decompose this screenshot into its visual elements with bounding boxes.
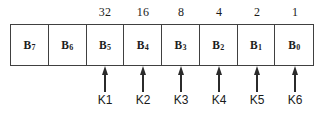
arrow-slot-b7	[10, 66, 48, 92]
bit-cell-b0: B0	[275, 25, 313, 65]
key-label-k6: K6	[276, 92, 314, 110]
bit-label-base-b6: B	[61, 39, 69, 51]
key-label-k5: K5	[238, 92, 276, 110]
key-label-row: K1 K2 K3 K4 K5 K6	[10, 92, 314, 110]
arrow-up-icon-k3	[162, 66, 200, 92]
bit-label-base-b0: B	[288, 39, 296, 51]
weight-label-b1: 2	[238, 4, 276, 22]
arrow-shaft-k1	[104, 74, 105, 92]
weight-label-b4: 16	[124, 4, 162, 22]
bit-cell-b3: B3	[162, 25, 200, 65]
bit-label-base-b7: B	[24, 39, 32, 51]
bit-cell-b1: B1	[238, 25, 276, 65]
weight-label-b6	[48, 4, 86, 22]
bit-label-base-b4: B	[137, 39, 145, 51]
arrow-shaft-k4	[218, 74, 219, 92]
diagram-canvas: 32 16 8 4 2 1 B7 B6 B5 B4 B3 B2 B1 B0	[0, 0, 324, 115]
bit-label-sub-b0: 0	[296, 43, 300, 52]
bit-cell-b2: B2	[200, 25, 238, 65]
arrow-row	[10, 66, 314, 92]
bit-label-sub-b2: 2	[220, 43, 224, 52]
arrow-up-icon-k6	[276, 66, 314, 92]
arrow-shaft-k2	[142, 74, 143, 92]
arrow-shaft-k3	[180, 74, 181, 92]
bit-label-base-b1: B	[250, 39, 258, 51]
key-label-b7	[10, 92, 48, 110]
bit-cell-b5: B5	[87, 25, 125, 65]
weight-label-b0: 1	[276, 4, 314, 22]
bit-cell-b4: B4	[124, 25, 162, 65]
bit-label-base-b5: B	[99, 39, 107, 51]
weight-label-b5: 32	[86, 4, 124, 22]
arrow-up-icon-k5	[238, 66, 276, 92]
weight-label-b2: 4	[200, 4, 238, 22]
bit-register: B7 B6 B5 B4 B3 B2 B1 B0	[10, 24, 314, 66]
arrow-up-icon-k2	[124, 66, 162, 92]
bit-label-sub-b3: 3	[183, 43, 187, 52]
key-label-b6	[48, 92, 86, 110]
bit-cell-b6: B6	[49, 25, 87, 65]
weight-label-b7	[10, 4, 48, 22]
key-label-k2: K2	[124, 92, 162, 110]
bit-label-sub-b6: 6	[69, 43, 73, 52]
key-label-k1: K1	[86, 92, 124, 110]
weight-label-b3: 8	[162, 4, 200, 22]
weight-label-row: 32 16 8 4 2 1	[10, 4, 314, 22]
bit-cell-b7: B7	[11, 25, 49, 65]
arrow-slot-b6	[48, 66, 86, 92]
key-label-k4: K4	[200, 92, 238, 110]
bit-label-base-b3: B	[175, 39, 183, 51]
bit-label-sub-b7: 7	[32, 43, 36, 52]
arrow-up-icon-k1	[86, 66, 124, 92]
bit-label-base-b2: B	[212, 39, 220, 51]
bit-label-sub-b4: 4	[145, 43, 149, 52]
arrow-shaft-k6	[294, 74, 295, 92]
key-label-k3: K3	[162, 92, 200, 110]
bit-label-sub-b1: 1	[258, 43, 262, 52]
bit-label-sub-b5: 5	[107, 43, 111, 52]
arrow-shaft-k5	[256, 74, 257, 92]
arrow-up-icon-k4	[200, 66, 238, 92]
